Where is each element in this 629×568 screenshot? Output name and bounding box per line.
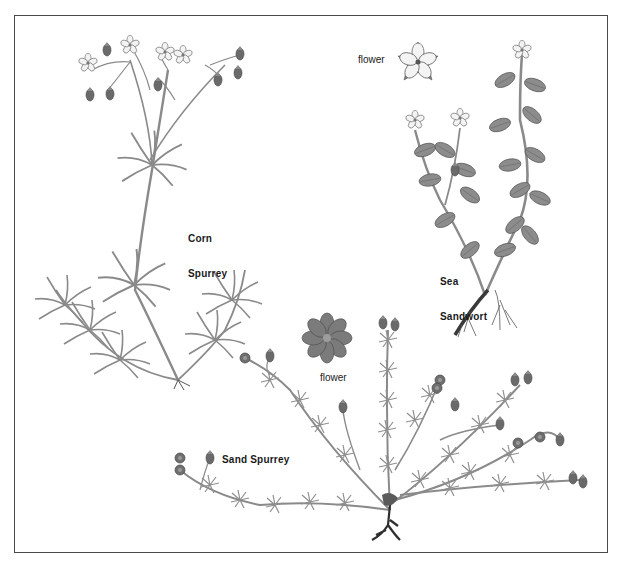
sand-spurrey-flower-detail bbox=[302, 313, 352, 363]
sea-sandwort-label-line2: Sandwort bbox=[440, 311, 487, 323]
corn-spurrey-illustration bbox=[35, 36, 262, 391]
sand-spurrey-label-line1: Sand Spurrey bbox=[222, 454, 289, 466]
sand-spurrey-illustration bbox=[175, 313, 587, 540]
sand-spurrey-label: Sand Spurrey bbox=[222, 431, 289, 477]
corn-spurrey-label-line2: Spurrey bbox=[188, 268, 227, 280]
sea-sandwort-flower-caption: flower bbox=[358, 54, 385, 65]
sea-sandwort-flower-detail bbox=[398, 42, 438, 81]
sea-sandwort-label-line1: Sea bbox=[440, 276, 487, 288]
corn-spurrey-label-line1: Corn bbox=[188, 233, 227, 245]
sea-sandwort-label: Sea Sandwort bbox=[440, 253, 487, 334]
corn-spurrey-label: Corn Spurrey bbox=[188, 210, 227, 291]
sand-spurrey-flower-caption: flower bbox=[320, 372, 347, 383]
botanical-illustration bbox=[0, 0, 629, 568]
